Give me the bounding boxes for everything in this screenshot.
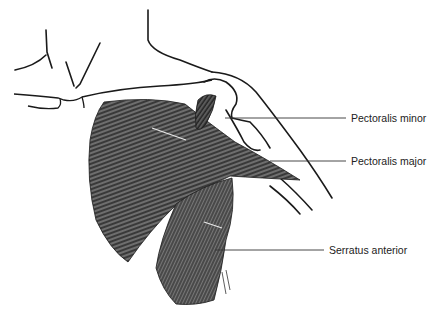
leader-lines: [215, 118, 346, 250]
pectoralis-minor-muscle: [195, 95, 216, 130]
label-pectoralis-minor: Pectoralis minor: [351, 112, 426, 124]
artist-signature: [222, 270, 230, 294]
neck-outline: [15, 10, 212, 88]
label-pectoralis-major: Pectoralis major: [351, 155, 426, 167]
label-serratus-anterior: Serratus anterior: [329, 244, 407, 256]
